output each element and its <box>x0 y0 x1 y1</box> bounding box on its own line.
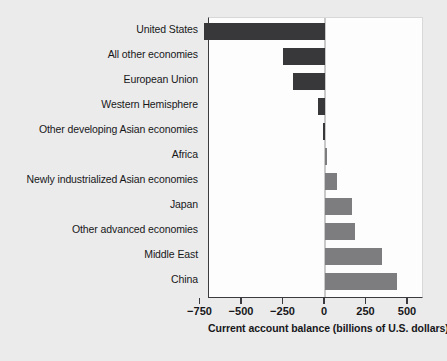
x-tick <box>365 298 366 304</box>
bar-other-advanced-economies <box>325 223 355 240</box>
category-axis-labels: United StatesAll other economiesEuropean… <box>0 21 204 297</box>
x-tick <box>323 298 324 304</box>
x-tick-label: −750 <box>187 305 212 317</box>
x-tick-label: −500 <box>229 305 254 317</box>
x-tick-label: 0 <box>321 305 327 317</box>
category-label: Western Hemisphere <box>0 99 198 110</box>
category-label: Other advanced economies <box>0 224 198 235</box>
category-label: European Union <box>0 74 198 85</box>
category-label: Newly industrialized Asian economies <box>0 174 198 185</box>
bar-japan <box>325 198 352 215</box>
bar-united-states <box>204 23 325 40</box>
x-tick-label: −250 <box>270 305 295 317</box>
bar-newly-industrialized-asian-economies <box>325 173 337 190</box>
bar-africa <box>325 148 327 165</box>
category-label: Other developing Asian economies <box>0 124 198 135</box>
x-axis-tick-labels: −750−500−2500250500 <box>150 305 440 321</box>
category-label: Africa <box>0 149 198 160</box>
bar-middle-east <box>325 248 382 265</box>
category-label: United States <box>0 24 198 35</box>
category-label: Middle East <box>0 249 198 260</box>
x-tick-label: 250 <box>356 305 374 317</box>
x-axis-title: Current account balance (billions of U.S… <box>208 322 440 334</box>
bar-all-other-economies <box>283 48 325 65</box>
bar-european-union <box>293 73 325 90</box>
bar-other-developing-asian-economies <box>323 123 325 140</box>
plot-area <box>208 17 423 298</box>
x-tick <box>240 298 241 304</box>
x-tick <box>199 298 200 304</box>
chart-figure: United StatesAll other economiesEuropean… <box>0 0 447 361</box>
bar-western-hemisphere <box>318 98 325 115</box>
category-label: China <box>0 274 198 285</box>
category-label: Japan <box>0 199 198 210</box>
bar-china <box>325 273 397 290</box>
x-tick-label: 500 <box>398 305 416 317</box>
x-tick <box>406 298 407 304</box>
category-label: All other economies <box>0 49 198 60</box>
x-tick <box>282 298 283 304</box>
